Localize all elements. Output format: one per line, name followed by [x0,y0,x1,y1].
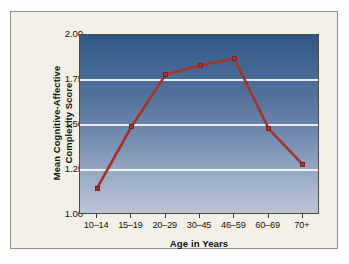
y-axis-tick-label: 1.25 [49,164,83,174]
data-point-marker [266,126,271,131]
data-point-marker [163,72,168,77]
x-axis-tick [233,214,234,218]
data-point-marker [198,63,203,68]
x-axis-tick [199,214,200,218]
x-axis-title: Age in Years [79,238,319,249]
y-axis-tick-labels: 2.001.751.501.251.00 [49,40,83,230]
data-markers-layer [80,35,318,213]
plot-area [79,34,319,214]
figure-root: Mean Cognitive-Affective Complexity Scor… [0,0,349,264]
chart-panel: Mean Cognitive-Affective Complexity Scor… [10,11,338,249]
x-axis-tick-marks [79,214,319,219]
data-point-marker [232,56,237,61]
y-axis-tick-label: 2.00 [49,29,83,39]
x-axis-tick [130,214,131,218]
x-axis-tick [302,214,303,218]
data-point-marker [300,162,305,167]
x-axis-tick [268,214,269,218]
y-axis-tick-label: 1.75 [49,74,83,84]
x-axis-tick [96,214,97,218]
x-axis-tick [165,214,166,218]
data-point-marker [95,186,100,191]
x-axis-tick-labels: 10–1415–1920–2930–4546–5960–6970+ [79,220,319,234]
x-axis-tick-label: 70+ [280,220,324,231]
data-point-marker [129,124,134,129]
y-axis-tick-label: 1.00 [49,209,83,219]
y-axis-tick-label: 1.50 [49,119,83,129]
